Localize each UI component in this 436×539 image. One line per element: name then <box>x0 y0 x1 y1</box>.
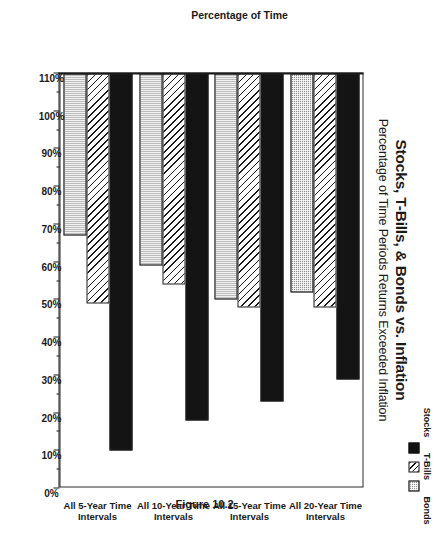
bar-row <box>313 73 336 486</box>
category-axis-line <box>58 72 363 74</box>
bar-row <box>109 73 132 486</box>
value-tick-label: 10% <box>41 449 61 460</box>
value-tick-label: 110% <box>38 72 63 83</box>
chart-subtitle: Percentage of Time Periods Returns Excee… <box>375 0 389 539</box>
bar-stocks <box>336 73 359 379</box>
bar-row <box>86 73 109 486</box>
bar-row <box>63 73 86 486</box>
bar-t-bills <box>86 73 109 303</box>
value-tick-label: 80% <box>41 185 61 196</box>
bar-row <box>214 73 237 486</box>
bar-t-bills <box>237 73 260 307</box>
chart-title: Stocks, T-Bills, & Bonds vs. Inflation <box>391 0 409 539</box>
bar-row <box>162 73 185 486</box>
value-tick-minor <box>56 317 59 318</box>
figure-caption: Figure 10.2 <box>175 497 233 509</box>
value-tick-minor <box>56 242 59 243</box>
value-tick-label: 20% <box>41 412 61 423</box>
value-tick-label: 60% <box>41 261 61 272</box>
bar-bonds <box>63 73 86 235</box>
bar-groups <box>60 73 362 486</box>
bar-row <box>260 73 283 486</box>
value-tick-minor <box>56 280 59 281</box>
bar-bonds <box>214 73 237 299</box>
value-tick-label: 100% <box>38 110 64 121</box>
value-tick-label: 90% <box>41 147 61 158</box>
bar-group <box>60 73 136 486</box>
bar-bonds <box>139 73 162 265</box>
legend-swatch-stocks-icon <box>408 442 419 453</box>
bar-row <box>237 73 260 486</box>
bar-stocks <box>109 73 132 450</box>
value-tick-minor <box>56 91 59 92</box>
bar-row <box>185 73 208 486</box>
bar-group <box>211 73 287 486</box>
value-tick-label: 30% <box>41 374 61 385</box>
bar-group <box>136 73 212 486</box>
value-tick-label: 0% <box>44 487 58 498</box>
bar-bonds <box>290 73 313 292</box>
bar-t-bills <box>162 73 185 284</box>
bar-group <box>287 73 363 486</box>
value-tick-minor <box>56 204 59 205</box>
category-axis-labels: All 5-Year TimeIntervalsAll 10-Year Time… <box>59 487 363 535</box>
value-tick-label: 40% <box>41 336 61 347</box>
legend-swatch-row <box>408 442 419 491</box>
value-tick-minor <box>56 393 59 394</box>
bar-row <box>336 73 359 486</box>
value-tick-minor <box>56 129 59 130</box>
value-tick-label: 70% <box>41 223 61 234</box>
value-tick-minor <box>56 468 59 469</box>
bar-stocks <box>260 73 283 401</box>
value-tick-minor <box>56 166 59 167</box>
plot-area <box>59 72 363 487</box>
legend-swatch-tbills-icon <box>408 461 419 472</box>
value-tick-minor <box>56 430 59 431</box>
bar-stocks <box>185 73 208 420</box>
value-tick-minor <box>56 355 59 356</box>
legend-label-tbills: T-Bills <box>421 451 431 481</box>
legend-swatch-bonds-icon <box>408 480 419 491</box>
bar-row <box>290 73 313 486</box>
value-axis-title: Percentage of Time <box>179 8 299 20</box>
legend-label-stocks: Stocks <box>421 407 431 437</box>
value-axis-ticks <box>52 72 59 487</box>
value-tick-label: 50% <box>41 298 61 309</box>
bar-row <box>139 73 162 486</box>
value-axis-tick-labels: 110%100%90%80%70%60%50%40%30%20%10%0% <box>25 72 51 487</box>
bar-t-bills <box>313 73 336 307</box>
